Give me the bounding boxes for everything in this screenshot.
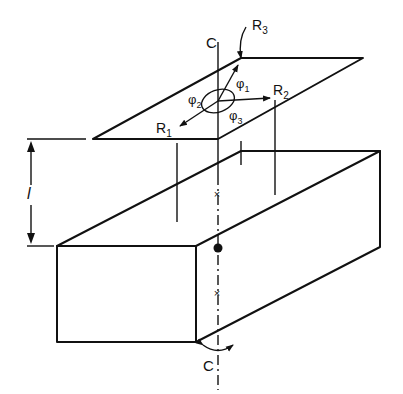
diagram-canvas: × × C C l R3 R2 R1 φ1 φ2 φ3	[0, 0, 403, 394]
label-phi2: φ2	[188, 92, 201, 110]
svg-text:×: ×	[214, 188, 220, 200]
dimension-label: l	[27, 185, 31, 202]
block-diagram: × × C C l R3 R2 R1 φ1 φ2 φ3	[0, 0, 403, 394]
label-phi1: φ1	[236, 76, 249, 94]
label-r3: R3	[252, 17, 268, 36]
dimension-l	[27, 139, 86, 246]
label-phi3: φ3	[229, 108, 242, 126]
label-r1: R1	[156, 120, 172, 139]
label-r2: R2	[273, 82, 289, 101]
axis-label-bottom: C	[203, 357, 214, 374]
center-of-mass-marker	[214, 244, 223, 253]
svg-text:×: ×	[214, 287, 220, 299]
axis-label-top: C	[206, 34, 217, 51]
rotation-vectors	[180, 27, 270, 126]
top-plate	[93, 58, 363, 139]
